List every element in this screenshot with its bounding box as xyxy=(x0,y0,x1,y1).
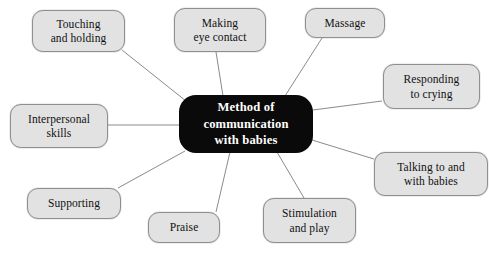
node-making-eye-contact[interactable]: Making eye contact xyxy=(174,8,266,52)
node-stimulation-and-play[interactable]: Stimulation and play xyxy=(263,198,356,243)
connector-line-touching-and-holding xyxy=(122,50,186,101)
node-label-stimulation-and-play: Stimulation and play xyxy=(277,206,342,235)
node-touching-and-holding[interactable]: Touching and holding xyxy=(32,10,125,52)
node-label-making-eye-contact: Making eye contact xyxy=(188,16,251,45)
node-massage[interactable]: Massage xyxy=(305,8,385,38)
connector-line-stimulation-and-play xyxy=(277,152,304,198)
node-responding-to-crying[interactable]: Responding to crying xyxy=(383,64,480,109)
node-label-interpersonal-skills: Interpersonal skills xyxy=(23,112,95,141)
node-label-massage: Massage xyxy=(320,16,371,30)
connector-line-responding-to-crying xyxy=(313,101,382,110)
node-label-supporting: Supporting xyxy=(43,196,105,210)
node-label-responding-to-crying: Responding to crying xyxy=(399,72,465,101)
node-label-praise: Praise xyxy=(165,220,204,234)
mind-map-diagram: Method of communication with babies Touc… xyxy=(0,0,489,256)
connector-line-making-eye-contact xyxy=(216,52,223,96)
connector-line-talking-to-and-with-babies xyxy=(312,140,374,159)
connector-line-praise xyxy=(216,152,230,212)
node-interpersonal-skills[interactable]: Interpersonal skills xyxy=(10,104,108,148)
central-topic-label: Method of communication with babies xyxy=(197,99,294,148)
node-praise[interactable]: Praise xyxy=(148,212,220,243)
node-label-talking-to-and-with-babies: Talking to and with babies xyxy=(392,160,470,189)
central-topic-node[interactable]: Method of communication with babies xyxy=(179,95,313,153)
connector-line-massage xyxy=(285,38,322,96)
node-supporting[interactable]: Supporting xyxy=(27,188,121,219)
node-label-touching-and-holding: Touching and holding xyxy=(46,17,112,46)
node-talking-to-and-with-babies[interactable]: Talking to and with babies xyxy=(374,152,488,196)
connector-line-supporting xyxy=(118,151,185,188)
